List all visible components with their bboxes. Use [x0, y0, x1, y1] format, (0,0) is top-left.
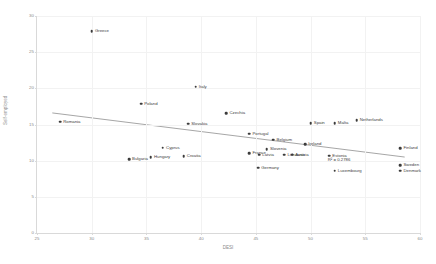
data-point[interactable]	[162, 146, 165, 149]
data-point-label: Hungary	[154, 155, 170, 159]
data-point-label: Spain	[314, 121, 325, 125]
scatter-chart: R² = 0.2786 2530354045505560051015202530…	[0, 0, 436, 264]
y-tick-mark	[35, 88, 37, 89]
data-point[interactable]	[272, 138, 275, 141]
x-tick-mark	[92, 233, 93, 235]
data-point-label: Greece	[95, 29, 109, 33]
data-point[interactable]	[150, 156, 153, 159]
data-point[interactable]	[291, 154, 294, 157]
gridline-horizontal	[37, 161, 420, 162]
data-point[interactable]	[248, 152, 251, 155]
x-axis-title: DESI	[36, 246, 420, 251]
data-point[interactable]	[248, 133, 251, 136]
gridline-horizontal	[37, 88, 420, 89]
y-tick-label: 5	[32, 195, 34, 199]
data-point-label: Croatia	[187, 154, 201, 158]
data-point[interactable]	[283, 154, 286, 157]
y-tick-label: 20	[29, 86, 34, 90]
x-tick-mark	[256, 233, 257, 235]
gridline-horizontal	[37, 125, 420, 126]
data-point-label: Romania	[63, 119, 80, 123]
x-tick-label: 55	[363, 237, 368, 241]
data-point-label: Slovakia	[191, 122, 207, 126]
x-tick-mark	[365, 233, 366, 235]
x-tick-mark	[420, 233, 421, 235]
data-point-label: Poland	[144, 101, 157, 105]
x-tick-mark	[311, 233, 312, 235]
data-point-label: Germany	[261, 166, 279, 170]
gridline-horizontal	[37, 52, 420, 53]
y-tick-label: 30	[29, 14, 34, 18]
data-point[interactable]	[304, 143, 307, 146]
y-tick-mark	[35, 125, 37, 126]
data-point[interactable]	[90, 30, 93, 33]
data-point-label: Estonia	[332, 153, 346, 157]
data-point[interactable]	[225, 112, 228, 115]
data-point[interactable]	[399, 164, 402, 167]
data-point[interactable]	[140, 102, 143, 105]
data-point[interactable]	[355, 119, 358, 122]
data-point-label: Latvia	[262, 153, 273, 157]
data-point[interactable]	[194, 86, 197, 89]
x-tick-label: 60	[418, 237, 423, 241]
data-point-label: Belgium	[277, 138, 293, 142]
x-tick-label: 50	[308, 237, 313, 241]
data-point-label: Portugal	[252, 132, 268, 136]
data-point-label: Cyprus	[166, 145, 180, 149]
gridline-horizontal	[37, 16, 420, 17]
x-tick-label: 25	[35, 237, 40, 241]
data-point-label: Luxembourg	[338, 169, 362, 173]
x-tick-label: 40	[199, 237, 204, 241]
data-point[interactable]	[309, 122, 312, 125]
y-axis-title: Self-employed	[4, 96, 9, 125]
data-point-label: Italy	[199, 85, 207, 89]
data-point-label: Ireland	[308, 142, 321, 146]
data-point-label: Netherlands	[360, 118, 383, 122]
data-point-label: Bulgaria	[132, 157, 148, 161]
y-tick-label: 0	[32, 231, 34, 235]
y-tick-label: 25	[29, 50, 34, 54]
y-tick-label: 10	[29, 158, 34, 162]
data-point-label: Austria	[295, 153, 308, 157]
data-point[interactable]	[258, 154, 261, 157]
x-tick-mark	[37, 233, 38, 235]
gridline-vertical	[420, 16, 421, 233]
gridline-horizontal	[37, 197, 420, 198]
data-point[interactable]	[59, 120, 62, 123]
x-tick-label: 35	[144, 237, 149, 241]
y-tick-mark	[35, 197, 37, 198]
x-tick-mark	[201, 233, 202, 235]
x-tick-mark	[146, 233, 147, 235]
data-point-label: Finland	[404, 146, 418, 150]
data-point[interactable]	[328, 154, 331, 157]
y-tick-mark	[35, 16, 37, 17]
y-tick-mark	[35, 52, 37, 53]
data-point[interactable]	[182, 155, 185, 158]
x-tick-label: 45	[253, 237, 258, 241]
data-point-label: Czechia	[230, 111, 246, 115]
data-point[interactable]	[333, 122, 336, 125]
data-point[interactable]	[187, 122, 190, 125]
data-point[interactable]	[399, 169, 402, 172]
data-point[interactable]	[399, 147, 402, 150]
data-point-label: Sweden	[404, 163, 420, 167]
data-point-label: Malta	[338, 121, 349, 125]
data-point-label: Denmark	[404, 169, 421, 173]
y-tick-mark	[35, 161, 37, 162]
data-point[interactable]	[257, 167, 260, 170]
plot-area: R² = 0.2786 2530354045505560051015202530…	[36, 16, 420, 234]
y-tick-mark	[35, 233, 37, 234]
data-point[interactable]	[266, 148, 269, 151]
data-point[interactable]	[333, 169, 336, 172]
data-point-label: Slovenia	[270, 147, 286, 151]
data-point[interactable]	[128, 158, 131, 161]
y-tick-label: 15	[29, 122, 34, 126]
x-tick-label: 30	[89, 237, 94, 241]
